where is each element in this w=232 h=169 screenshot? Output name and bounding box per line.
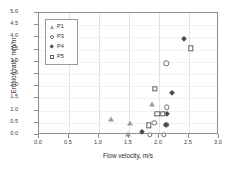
- circle-marker-icon: [48, 35, 56, 39]
- legend-label: P3: [57, 34, 64, 40]
- y-axis-tick-label: 3.5: [0, 46, 18, 52]
- y-axis-tick-label: 5.0: [0, 9, 18, 15]
- data-point-p3: [164, 104, 169, 109]
- x-axis-tick-label: 2.0: [146, 140, 170, 146]
- gridline-vertical: [99, 13, 100, 133]
- data-point-p4: [139, 129, 145, 135]
- gridline-horizontal: [39, 74, 217, 75]
- y-axis-tick-label: 2.5: [0, 70, 18, 76]
- x-axis-tick-mark: [158, 134, 159, 138]
- data-point-p5: [188, 46, 193, 51]
- y-axis-tick-mark: [34, 85, 38, 86]
- gridline-horizontal: [39, 86, 217, 87]
- data-point-p4: [164, 111, 170, 117]
- legend-label: P5: [57, 54, 64, 60]
- legend-item-p5: P5: [48, 52, 77, 62]
- x-axis-tick-label: 1.0: [86, 140, 110, 146]
- data-point-p3: [163, 61, 168, 66]
- y-axis-tick-mark: [34, 36, 38, 37]
- x-axis-tick-label: 1.5: [116, 140, 140, 146]
- y-axis-tick-mark: [34, 12, 38, 13]
- square-marker-icon: [48, 55, 56, 59]
- x-axis-title: Flow velocity, m/s: [38, 152, 218, 159]
- x-axis-tick-mark: [128, 134, 129, 138]
- x-axis-tick-label: 0.5: [56, 140, 80, 146]
- scatter-chart: Erosion rate, mm/hr Flow velocity, m/s P…: [0, 0, 232, 169]
- legend-label: P1: [57, 24, 64, 30]
- x-axis-tick-mark: [188, 134, 189, 138]
- data-point-p3: [161, 132, 166, 137]
- x-axis-tick-mark: [98, 134, 99, 138]
- y-axis-tick-label: 0.5: [0, 119, 18, 125]
- triangle-marker-icon: [48, 25, 56, 29]
- data-point-p1: [108, 116, 114, 121]
- x-axis-tick-label: 0.0: [26, 140, 50, 146]
- data-point-p3: [147, 132, 152, 137]
- data-point-p1: [127, 121, 133, 126]
- y-axis-tick-mark: [34, 110, 38, 111]
- legend-item-p4: P4: [48, 42, 77, 52]
- y-axis-tick-label: 1.5: [0, 94, 18, 100]
- gridline-horizontal: [39, 98, 217, 99]
- y-axis-tick-label: 4.5: [0, 21, 18, 27]
- gridline-vertical: [189, 13, 190, 133]
- legend-label: P4: [57, 44, 64, 50]
- data-point-p5: [146, 123, 151, 128]
- x-axis-tick-mark: [68, 134, 69, 138]
- data-point-p1: [149, 102, 155, 107]
- y-axis-tick-label: 2.0: [0, 82, 18, 88]
- gridline-vertical: [129, 13, 130, 133]
- legend-item-p1: P1: [48, 22, 77, 32]
- data-point-p4: [169, 90, 175, 96]
- data-point-p5: [152, 86, 157, 91]
- y-axis-tick-mark: [34, 122, 38, 123]
- x-axis-tick-label: 3.0: [206, 140, 230, 146]
- data-point-p5: [160, 111, 165, 116]
- legend-item-p3: P3: [48, 32, 77, 42]
- y-axis-tick-mark: [34, 24, 38, 25]
- data-point-p3: [151, 120, 156, 125]
- y-axis-tick-mark: [34, 49, 38, 50]
- x-axis-tick-label: 2.5: [176, 140, 200, 146]
- y-axis-tick-label: 0.0: [0, 131, 18, 137]
- diamond-marker-icon: [48, 45, 56, 48]
- y-axis-tick-mark: [34, 73, 38, 74]
- gridline-horizontal: [39, 111, 217, 112]
- chart-legend: P1 P3 P4 P5: [45, 19, 78, 65]
- y-axis-tick-label: 3.0: [0, 58, 18, 64]
- x-axis-tick-mark: [218, 134, 219, 138]
- y-axis-tick-mark: [34, 97, 38, 98]
- y-axis-tick-label: 1.0: [0, 107, 18, 113]
- y-axis-tick-mark: [34, 61, 38, 62]
- y-axis-tick-label: 4.0: [0, 33, 18, 39]
- x-axis-tick-mark: [38, 134, 39, 138]
